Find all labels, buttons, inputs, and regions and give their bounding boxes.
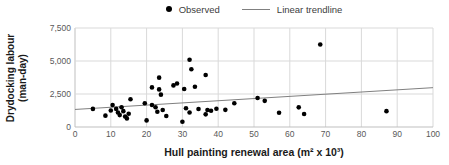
scatter-point [128,97,133,102]
y-tick-label: 7,500 [50,23,72,33]
scatter-point [110,103,115,108]
scatter-point [203,112,208,117]
scatter-point [182,87,187,92]
scatter-point [193,84,198,89]
scatter-point [214,106,219,111]
x-axis-title: Hull painting renewal area (m² x 10³) [75,146,433,158]
scatter-point [232,101,237,106]
x-tick-label: 40 [213,129,223,139]
scatter-point [203,73,208,78]
y-tick-label: 5,000 [50,56,72,66]
scatter-point [318,42,323,47]
scatter-point [277,110,282,115]
x-tick-label: 10 [106,129,116,139]
x-tick-label: 20 [142,129,152,139]
x-tick-label: 30 [178,129,188,139]
scatter-point [196,107,201,112]
y-tick-label: 2,500 [50,89,72,99]
scatter-point [91,107,96,112]
scatter-point [175,81,180,86]
scatter-point [262,99,267,104]
scatter-point [150,85,155,90]
scatter-point [187,110,192,115]
scatter-point [189,67,194,72]
plot-area: 010203040506070809010002,5005,0007,500 [0,0,449,165]
scatter-point [103,113,108,118]
scatter-point [157,87,162,92]
scatter-point [164,114,169,119]
scatter-point [384,109,389,114]
scatter-point [155,109,160,114]
scatter-point [109,108,114,113]
scatter-point [153,105,158,110]
x-tick-label: 70 [321,129,331,139]
scatter-point [125,116,130,121]
y-tick-label: 0 [66,122,71,132]
x-tick-label: 60 [285,129,295,139]
scatter-point [180,119,185,124]
scatter-point [144,118,149,123]
scatter-point [159,92,164,97]
scatter-point [160,108,165,113]
scatter-point [187,57,192,62]
x-tick-label: 90 [392,129,402,139]
scatter-chart: Observed Linear trendline Drydocking lab… [0,0,449,165]
scatter-point [209,108,214,113]
scatter-point [126,112,131,117]
x-tick-label: 50 [249,129,259,139]
x-tick-label: 80 [357,129,367,139]
scatter-point [119,105,124,110]
scatter-point [184,106,189,111]
scatter-point [296,105,301,110]
scatter-point [255,96,260,101]
x-tick-label: 100 [426,129,440,139]
x-tick-label: 0 [73,129,78,139]
scatter-point [223,108,228,113]
scatter-point [143,101,148,106]
scatter-point [117,113,122,118]
scatter-point [302,112,307,117]
scatter-point [157,75,162,80]
scatter-point [121,109,126,114]
